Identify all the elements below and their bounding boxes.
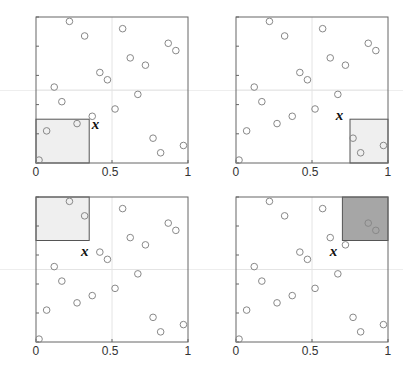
x-tick-label: 0 [233,345,240,357]
data-point-marker [297,249,304,256]
data-point-marker [274,300,281,307]
data-point-marker [357,329,364,336]
data-point-marker [259,278,266,285]
data-point-marker [266,198,273,205]
data-point-marker [312,285,319,292]
data-point-marker [243,307,250,314]
data-point-marker [281,213,288,220]
x-tick-label: 0.5 [302,345,319,357]
data-point-marker [251,263,258,270]
data-point-marker [335,271,342,278]
query-region [342,197,388,241]
data-point-marker [289,292,296,299]
data-point-marker [319,205,326,212]
data-point-marker [342,242,349,249]
data-point-marker [327,234,334,241]
scatter-plot [0,0,403,369]
figure: 00.20.40.60.8100.51x00.20.40.60.8100.51x… [0,0,403,369]
point-x-label: x [330,244,338,259]
data-point-marker [304,256,311,263]
data-point-marker [236,336,243,343]
data-point-marker [380,321,387,328]
x-tick-label: 1 [385,345,392,357]
data-point-marker [350,314,357,321]
